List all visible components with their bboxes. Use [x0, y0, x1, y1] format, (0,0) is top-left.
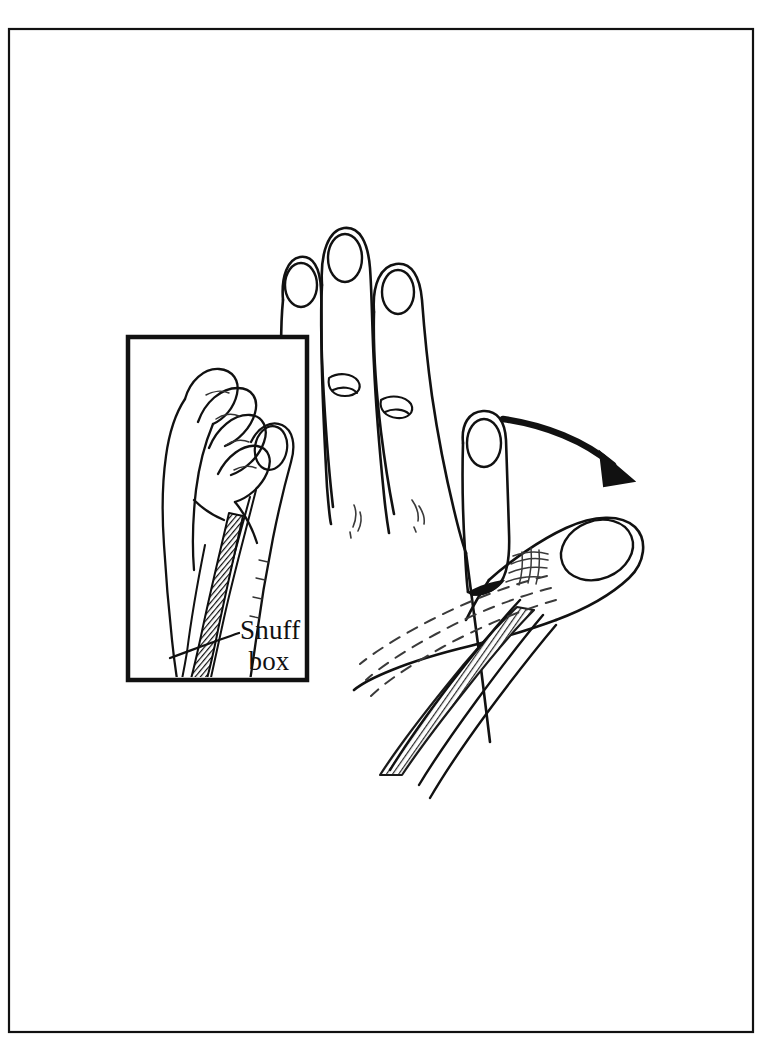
thumb-abduction-arrow [503, 419, 634, 486]
snuffbox-label-line1: Snuff [240, 615, 301, 645]
snuffbox-label-line2: box [248, 646, 289, 676]
page-border [9, 29, 753, 1032]
main-hand-illustration [281, 228, 643, 798]
index-fingernail [382, 270, 414, 314]
thumb-skin-creases [506, 548, 548, 585]
middle-fingernail [328, 234, 362, 282]
anatomical-figure: Snuff box [0, 0, 766, 1058]
knuckle-creases [329, 374, 412, 418]
page-canvas: Snuff box [0, 0, 766, 1058]
inset-panel: Snuff box [128, 337, 307, 686]
thumb-adducted-nail [467, 419, 501, 467]
arrow-head [600, 452, 634, 486]
arrow-shaft [503, 419, 613, 465]
ring-fingernail [285, 263, 317, 307]
thumb-adducted-outline [463, 411, 510, 594]
